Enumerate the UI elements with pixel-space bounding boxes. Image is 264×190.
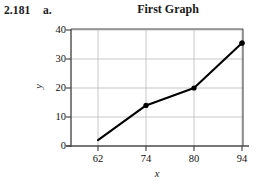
data-series-line [98, 43, 242, 140]
horizontal-gridlines [71, 30, 243, 117]
y-axis-ticks [66, 30, 71, 146]
figure-container: 2.181 a. First Graph 40 30 20 10 0 62 74… [0, 0, 264, 190]
data-point-62[interactable] [143, 103, 148, 108]
plot-area [0, 0, 264, 190]
data-point-74[interactable] [191, 85, 196, 90]
data-point-94[interactable] [239, 40, 244, 45]
x-axis-ticks [98, 146, 242, 151]
